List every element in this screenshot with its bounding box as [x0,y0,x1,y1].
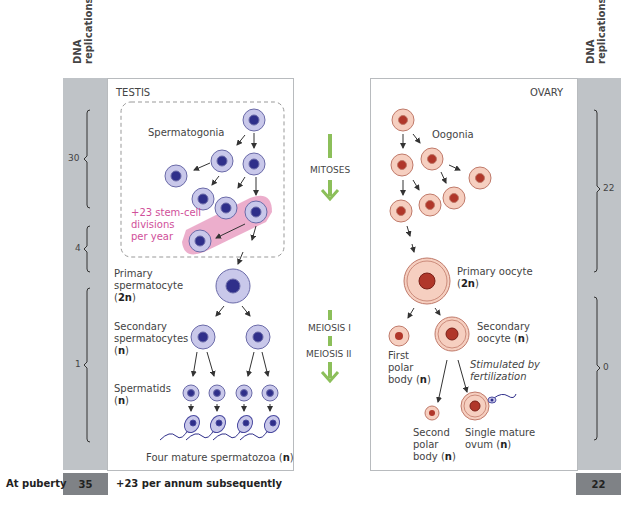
mature-ovum-label: Single mature ovum (n) [465,427,535,451]
label-line: spermatocyte [114,280,183,292]
stem-note-line: +23 stem-cell [131,207,201,219]
label-line: (2n) [457,278,533,290]
label-line: polar [413,439,456,451]
label-line: (2n) [114,292,183,304]
first-polar-body [389,326,409,346]
second-polar-body-label: Second polar body (n) [413,427,456,463]
ploidy: 2n [461,278,475,289]
label-line: Primary [114,268,183,280]
ploidy: 2n [118,292,132,303]
label-line: First [388,350,431,362]
left-brackets [84,110,90,442]
oogonia-label: Oogonia [432,129,474,141]
right-bracket-0: 0 [603,362,609,372]
label-line: body (n) [388,374,431,386]
ploidy: n [118,345,125,356]
label-text: Four mature spermatozoa ( [146,452,283,463]
ploidy: n [500,439,507,450]
label-text: ) [290,452,294,463]
meiosis1-label: MEIOSIS I [308,322,351,334]
label-line: Second [413,427,456,439]
right-bracket-22: 22 [603,183,614,193]
stimulated-label: Stimulated by fertilization [470,359,540,383]
primary-oocyte [404,258,450,304]
secondary-spermatocytes [191,325,270,349]
label-line: Single mature [465,427,535,439]
testis-title: TESTIS [116,87,150,99]
stem-cell-note: +23 stem-cell divisions per year [131,207,201,243]
secondary-oocyte [435,317,469,351]
label-line: ovum (n) [465,439,535,451]
secondary-spermatocytes-label: Secondary spermatocytes (n) [114,321,188,357]
oogonia-cells [390,109,491,222]
spermatids-label: Spermatids (n) [114,383,171,407]
left-bracket-1: 1 [75,359,81,369]
primary-spermatocyte [216,269,250,303]
spermatozoa [160,413,283,440]
second-polar-body [425,406,439,420]
ploidy: n [518,333,525,344]
first-polar-body-label: First polar body (n) [388,350,431,386]
label-line: (n) [114,345,188,357]
label-line: polar [388,362,431,374]
label-line: Secondary [114,321,188,333]
ploidy: n [118,395,125,406]
ploidy: n [420,374,427,385]
label-line: fertilization [470,371,540,383]
stem-note-line: per year [131,231,201,243]
label-line: oocyte (n) [477,333,530,345]
mitoses-label: MITOSES [310,164,350,176]
primary-spermatocyte-label: Primary spermatocyte (2n) [114,268,183,304]
right-brackets [594,110,600,440]
left-bracket-30: 30 [68,153,79,163]
label-line: Stimulated by [470,359,540,371]
label-text: body ( [388,374,420,385]
label-line: body (n) [413,451,456,463]
mature-ovum [461,392,516,420]
secondary-oocyte-label: Secondary oocyte (n) [477,321,530,345]
spermatids [183,385,278,401]
label-line: (n) [114,395,171,407]
label-text: body ( [413,451,445,462]
spermatozoa-label: Four mature spermatozoa (n) [146,452,294,464]
spermatogonia-label: Spermatogonia [148,127,224,139]
ovary-title: OVARY [530,87,563,99]
stem-note-line: divisions [131,219,201,231]
label-text: oocyte ( [477,333,518,344]
diagram-graphics [0,0,632,510]
label-line: Primary oocyte [457,266,533,278]
label-line: Spermatids [114,383,171,395]
label-text: ovum ( [465,439,500,450]
primary-oocyte-label: Primary oocyte (2n) [457,266,533,290]
meiosis2-label: MEIOSIS II [306,348,351,360]
label-line: Secondary [477,321,530,333]
left-bracket-4: 4 [75,243,81,253]
ploidy: n [283,452,290,463]
label-line: spermatocytes [114,333,188,345]
ploidy: n [445,451,452,462]
